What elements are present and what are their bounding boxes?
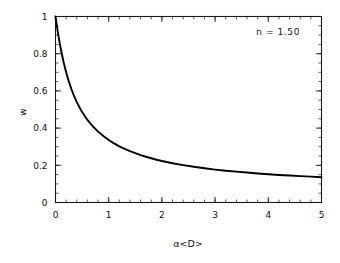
x-tick-label: 4 [265, 210, 271, 220]
y-axis-title: w [17, 108, 28, 116]
figure-container: 012345 00.20.40.60.81 α<D> w n = 1.50 [0, 0, 340, 263]
parameter-annotation: n = 1.50 [256, 27, 300, 37]
x-axis-title: α<D> [173, 238, 203, 249]
x-tick-label: 5 [319, 210, 325, 220]
y-tick-label: 0.2 [33, 161, 47, 171]
y-axis-tick-labels: 00.20.40.60.81 [33, 12, 48, 208]
y-tick-label: 0.8 [33, 49, 48, 59]
x-axis-tick-labels: 012345 [53, 210, 325, 220]
x-tick-label: 3 [212, 210, 218, 220]
y-tick-label: 0.6 [33, 86, 48, 96]
data-series-curve [56, 17, 322, 178]
y-tick-label: 1 [42, 12, 48, 22]
y-tick-label: 0 [42, 198, 48, 208]
x-tick-label: 0 [53, 210, 59, 220]
chart-canvas: 012345 00.20.40.60.81 α<D> w n = 1.50 [0, 0, 340, 263]
x-tick-label: 2 [159, 210, 165, 220]
x-tick-label: 1 [106, 210, 112, 220]
y-tick-label: 0.4 [33, 123, 48, 133]
